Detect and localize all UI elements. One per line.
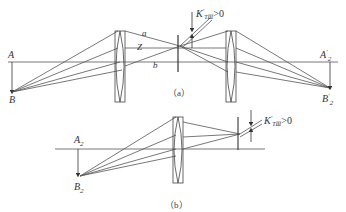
svg-text:B2: B2 <box>74 181 84 195</box>
svg-text:B′2: B′2 <box>322 92 334 107</box>
label-B2: B2 <box>74 181 84 195</box>
label-B2-prime: B′2 <box>322 92 334 107</box>
lens-b <box>173 117 183 183</box>
label-A2-prime: A′2 <box>319 48 332 63</box>
caption-b: （b） <box>165 200 188 210</box>
k-label-b: K′TⅢ>0 <box>263 114 292 127</box>
label-B: B <box>9 94 15 105</box>
svg-text:A2: A2 <box>73 134 84 148</box>
svg-text:K′TⅢ>0: K′TⅢ>0 <box>263 114 292 127</box>
label-Z: Z <box>137 42 143 52</box>
k-label-a: K′TⅢ>0 <box>195 7 224 20</box>
label-a: a <box>142 28 147 38</box>
optical-diagram: A B a Z b K′TⅢ>0 A′2 B′2 （a） <box>0 0 346 212</box>
ray-a <box>125 31 180 46</box>
label-b: b <box>153 60 158 70</box>
label-A2: A2 <box>73 134 84 148</box>
caption-a: （a） <box>168 88 190 98</box>
svg-text:A′2: A′2 <box>319 48 332 63</box>
svg-text:K′TⅢ>0: K′TⅢ>0 <box>195 7 224 20</box>
lens-2 <box>226 31 236 102</box>
label-A: A <box>7 49 15 60</box>
figure-b <box>55 110 265 183</box>
lens-1 <box>115 31 125 102</box>
